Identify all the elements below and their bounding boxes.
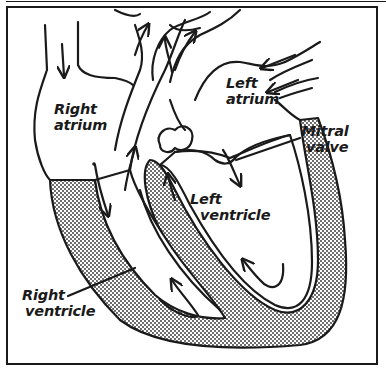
heart-diagram-figure: Right atrium Left atrium Mitral valve Le… (0, 0, 386, 374)
flow-dot (92, 162, 96, 166)
pulmonary-trunk-right (170, 10, 240, 82)
label-mitral-valve: Mitral valve (300, 123, 349, 155)
label-right-atrium: Right atrium (54, 101, 107, 133)
label-left-ventricle: Left ventricle (190, 191, 270, 223)
flow-arrow-pulmonary-vein-1 (262, 55, 295, 68)
pulmonary-vein-4 (280, 88, 312, 98)
superior-vena-cava (78, 22, 133, 85)
pulmonary-arch (170, 25, 200, 30)
right-atrium-wall (34, 25, 50, 180)
label-left-atrium: Left atrium (226, 75, 279, 107)
aortic-valve-cusp (159, 126, 193, 152)
pulmonary-trunk-left (152, 12, 210, 80)
aortic-arch-top (115, 10, 140, 16)
label-right-ventricle: Right ventricle (22, 287, 95, 319)
pulmonary-vein-1 (285, 42, 320, 62)
flow-arrow-svc (62, 44, 64, 76)
